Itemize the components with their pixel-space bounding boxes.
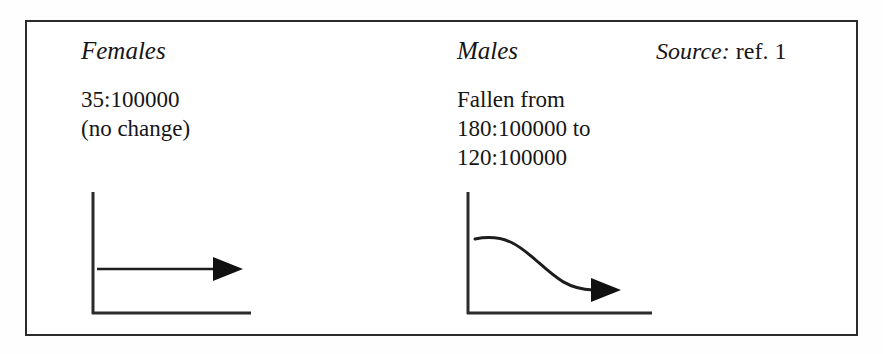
column-body-females: 35:100000 (no change) bbox=[81, 85, 190, 143]
males-trend-line: Fallen from bbox=[457, 85, 591, 114]
females-change-line: (no change) bbox=[81, 114, 190, 143]
source-label: Source: ref. 1 bbox=[656, 37, 786, 65]
mini-chart-males bbox=[460, 188, 680, 323]
males-rate-from-line: 180:100000 to bbox=[457, 114, 591, 143]
column-heading-females: Females bbox=[81, 37, 166, 65]
mini-chart-females bbox=[85, 188, 305, 323]
females-trend-arrowhead-icon bbox=[213, 257, 243, 281]
source-value: ref. 1 bbox=[736, 38, 787, 64]
source-key: Source: bbox=[656, 38, 730, 64]
figure-root: Females 35:100000 (no change) Males Fall… bbox=[0, 0, 883, 354]
males-trend-sparkline bbox=[460, 188, 680, 323]
males-trend-curve-path bbox=[475, 238, 593, 290]
figure-frame-border: Females 35:100000 (no change) Males Fall… bbox=[25, 20, 858, 336]
column-body-males: Fallen from 180:100000 to 120:100000 bbox=[457, 85, 591, 172]
females-trend-sparkline bbox=[85, 188, 305, 323]
males-trend-arrowhead-icon bbox=[591, 278, 621, 302]
males-rate-to-line: 120:100000 bbox=[457, 143, 591, 172]
females-rate-line: 35:100000 bbox=[81, 85, 190, 114]
column-heading-males: Males bbox=[457, 37, 518, 65]
